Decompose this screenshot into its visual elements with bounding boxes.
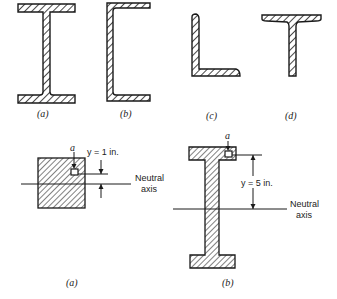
dimension-arrow-up-icon	[251, 155, 256, 160]
caption-top-a: (a)	[37, 108, 49, 120]
panel-b-i-beam: a y = 5 in. Neutral axis	[173, 130, 319, 268]
point-label-a: a	[70, 142, 75, 153]
dimension-arrow-up-icon	[99, 184, 104, 189]
neutral-axis-label-line2: axis	[141, 184, 158, 194]
point-label-a: a	[225, 130, 230, 141]
neutral-axis-label-line2: axis	[296, 210, 313, 220]
neutral-axis-label-line1: Neutral	[135, 173, 164, 183]
caption-top-d: (d)	[285, 110, 297, 122]
dimension-label: y = 5 in.	[241, 178, 273, 188]
dimension-arrow-down-icon	[99, 169, 104, 174]
caption-bottom-b: (b)	[222, 277, 234, 289]
section-a-i-beam	[18, 4, 75, 103]
square-section	[38, 158, 85, 208]
caption-top-b: (b)	[120, 108, 132, 120]
section-b-channel	[107, 3, 150, 101]
caption-top-c: (c)	[206, 110, 218, 122]
dimension-label: y = 1 in.	[87, 147, 119, 157]
i-beam-section	[189, 147, 236, 268]
element-a-box	[71, 169, 78, 175]
section-c-angle	[192, 14, 240, 76]
neutral-axis-label-line1: Neutral	[290, 199, 319, 209]
element-a-box	[225, 151, 232, 157]
panel-a-square: a y = 1 in. Neutral axis	[21, 142, 164, 208]
section-d-tee	[262, 15, 321, 76]
caption-bottom-a: (a)	[66, 277, 78, 289]
cross-sections-diagram: (a) (b) (c) (d) a y = 1 in. Neutral axis	[0, 0, 337, 299]
dimension-arrow-down-icon	[251, 204, 256, 209]
